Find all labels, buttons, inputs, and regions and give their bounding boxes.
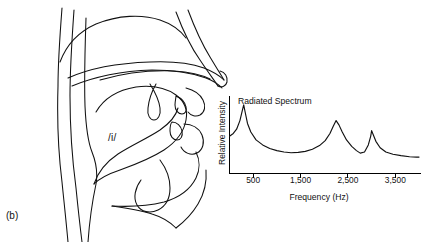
velum bbox=[148, 84, 160, 120]
head-outer-contour bbox=[58, 8, 68, 242]
nasal-cavity-detail bbox=[100, 71, 210, 80]
x-axis-ticks bbox=[253, 174, 395, 179]
spectrum-curve bbox=[230, 105, 420, 157]
panel-label: (b) bbox=[6, 210, 18, 221]
nasal-cavity-floor bbox=[72, 70, 222, 88]
oral-floor bbox=[112, 206, 176, 228]
tongue-root bbox=[94, 108, 178, 184]
chin-front bbox=[176, 170, 206, 228]
phoneme-label: /i/ bbox=[108, 132, 116, 143]
pharyngeal-wall bbox=[85, 18, 97, 242]
x-tick-label-500: 500 bbox=[236, 175, 270, 185]
x-tick-label-1500: 1,500 bbox=[284, 175, 318, 185]
hard-palate-upper bbox=[68, 62, 224, 80]
x-tick-label-3500: 3,500 bbox=[378, 175, 412, 185]
x-tick-label-2500: 2,500 bbox=[331, 175, 365, 185]
figure-root: /i/ (b) Radiated Spectrum Relative Inten… bbox=[0, 0, 429, 242]
upper-lip bbox=[186, 88, 205, 116]
forehead-contour bbox=[60, 16, 186, 62]
y-axis-label: Relative Intensity bbox=[217, 95, 227, 171]
jaw-contour bbox=[112, 152, 199, 206]
lower-lip bbox=[181, 124, 203, 154]
neck-inner-contour bbox=[70, 10, 82, 242]
x-axis-label: Frequency (Hz) bbox=[214, 192, 424, 202]
lower-teeth bbox=[170, 122, 182, 140]
spectrum-title: Radiated Spectrum bbox=[238, 96, 312, 106]
spectrum-panel: Radiated Spectrum Relative Intensity Fre… bbox=[214, 92, 424, 212]
